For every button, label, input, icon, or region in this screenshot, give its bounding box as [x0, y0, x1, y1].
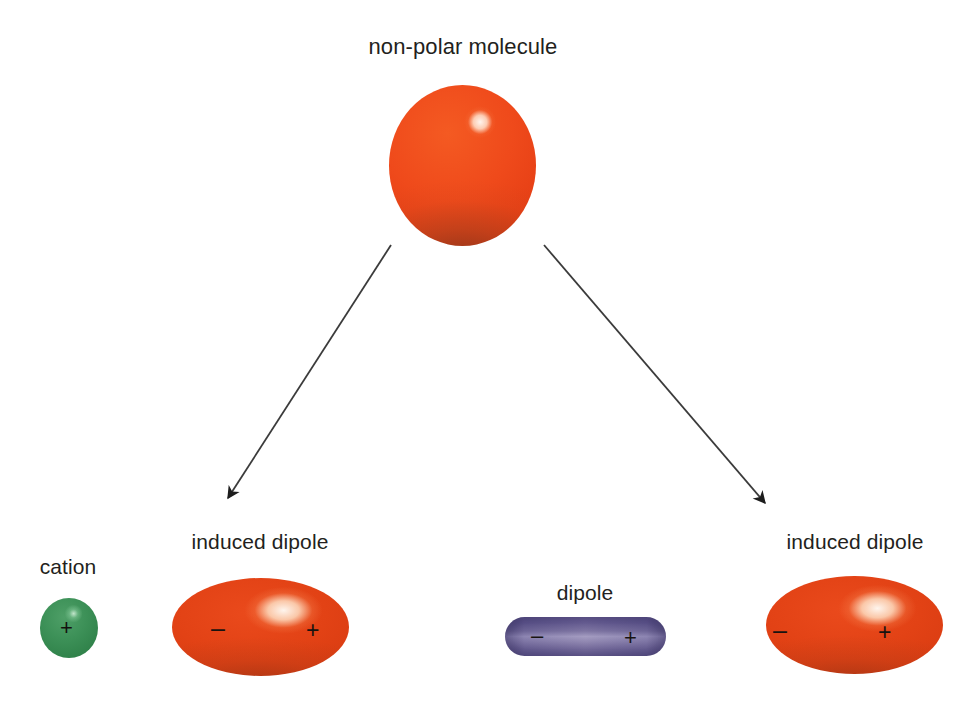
induced-dipole-right-ellipse: [766, 576, 943, 674]
arrow-to-left-induced-dipole: [228, 245, 391, 498]
cation-label: cation: [40, 556, 97, 577]
dipole-label: dipole: [557, 582, 614, 603]
induced-dipole-left-negative-charge-sign: –: [211, 616, 225, 641]
dipole-positive-charge-sign: +: [624, 627, 637, 649]
induced-dipole-left-positive-charge-sign: +: [306, 619, 319, 642]
induced-dipole-left-ellipse: [172, 578, 349, 676]
dipole-capsule: [505, 617, 666, 656]
arrow-to-right-induced-dipole: [544, 245, 765, 503]
diagram-canvas: non-polar molecule cation + induced dipo…: [0, 0, 962, 715]
nonpolar-molecule-label: non-polar molecule: [369, 36, 558, 58]
induced-dipole-left-label: induced dipole: [192, 531, 329, 552]
nonpolar-molecule-sphere: [389, 85, 536, 246]
cation-positive-charge-sign: +: [60, 617, 73, 639]
induced-dipole-right-positive-charge-sign: +: [878, 621, 891, 644]
induced-dipole-right-negative-charge-sign: –: [773, 618, 787, 643]
dipole-negative-charge-sign: –: [531, 625, 543, 647]
induced-dipole-right-label: induced dipole: [787, 531, 924, 552]
